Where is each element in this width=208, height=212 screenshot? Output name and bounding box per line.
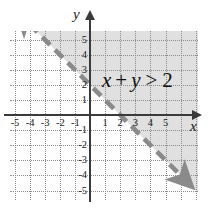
x-tick-label: 3 — [128, 118, 142, 129]
x-tick-label: -3 — [38, 118, 52, 129]
y-tick-label: 5 — [73, 35, 87, 46]
inequality-plus-sign: + — [115, 68, 127, 92]
x-axis-label: x — [190, 118, 197, 135]
y-tick-label: 4 — [73, 50, 87, 61]
grid-line-horizontal — [10, 130, 198, 131]
inequality-constant: 2 — [162, 68, 173, 92]
y-tick-label: -4 — [73, 170, 87, 181]
x-tick-label: 4 — [143, 118, 157, 129]
grid-line-horizontal — [10, 40, 198, 41]
y-tick-label: 1 — [73, 95, 87, 106]
x-tick-label: 1 — [98, 118, 112, 129]
grid-line-horizontal — [10, 175, 198, 176]
grid-line-horizontal — [10, 160, 198, 161]
y-tick-label: 2 — [73, 80, 87, 91]
inequality-relation-sign: > — [146, 68, 158, 92]
y-axis-label: y — [73, 6, 80, 23]
y-tick-label: -1 — [73, 125, 87, 136]
inequality-y-term: y — [131, 68, 140, 92]
x-tick-label: -2 — [53, 118, 67, 129]
y-axis-line — [89, 18, 91, 202]
x-tick-label: -5 — [8, 118, 22, 129]
coordinate-plane-graph: -5-4-3-2-11234554321-1-2-3-4-5 x y x+y>2 — [0, 0, 208, 212]
y-tick-label: -2 — [73, 140, 87, 151]
grid-line-horizontal — [10, 145, 198, 146]
x-tick-label: -4 — [23, 118, 37, 129]
y-tick-label: 3 — [73, 65, 87, 76]
grid-line-horizontal — [10, 191, 198, 192]
x-axis-line — [4, 114, 196, 116]
grid-line-horizontal — [10, 100, 198, 101]
y-tick-label: -5 — [73, 186, 87, 197]
y-axis-arrow-icon — [85, 10, 95, 20]
y-tick-label: -3 — [73, 155, 87, 166]
x-tick-label: 2 — [113, 118, 127, 129]
inequality-x-term: x — [102, 68, 111, 92]
inequality-annotation: x+y>2 — [102, 68, 173, 93]
x-tick-label: 5 — [159, 118, 173, 129]
grid-line-horizontal — [10, 55, 198, 56]
